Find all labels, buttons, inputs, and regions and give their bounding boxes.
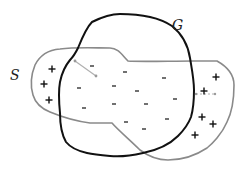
label-g: G — [172, 17, 183, 33]
plus-sign — [213, 74, 220, 81]
label-s: S — [10, 67, 20, 83]
diagram-svg: S G — [0, 0, 248, 169]
s-boundary — [31, 48, 234, 160]
left-arrow — [74, 60, 98, 78]
right-arrow — [195, 93, 216, 95]
plus-sign — [49, 66, 56, 73]
plus-sign — [46, 97, 53, 104]
plus-sign — [192, 132, 199, 139]
minus-signs — [77, 66, 177, 129]
plus-sign — [41, 81, 48, 88]
g-boundary — [59, 14, 194, 156]
plus-sign — [201, 88, 208, 95]
diagram-canvas: S G — [0, 0, 248, 169]
plus-sign — [210, 121, 217, 128]
plus-sign — [199, 114, 206, 121]
